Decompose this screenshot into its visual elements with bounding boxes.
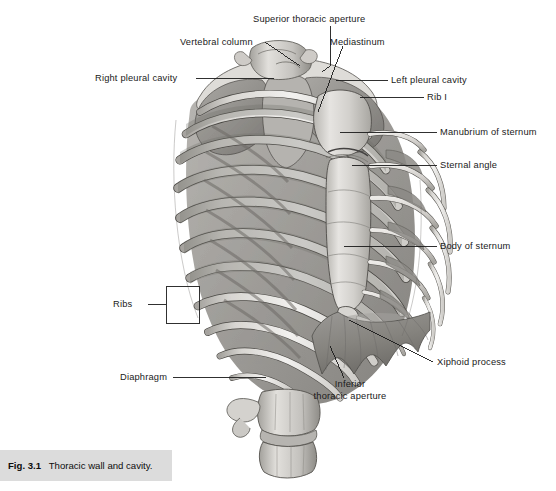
ribs-left-lateral xyxy=(178,94,406,398)
vertebral-column-lower xyxy=(227,389,320,478)
label-left-pleural-cavity: Left pleural cavity xyxy=(391,75,467,87)
label-superior-thoracic-aperture: Superior thoracic aperture xyxy=(253,14,365,26)
cropped-text-remnant xyxy=(0,0,556,4)
label-vertebral-column: Vertebral column xyxy=(180,37,253,49)
label-body-of-sternum: Body of sternum xyxy=(440,241,510,253)
sternum xyxy=(314,90,372,334)
leader-superior-thoracic-aperture xyxy=(322,26,330,72)
label-mediastinum: Mediastinum xyxy=(330,37,385,49)
label-sternal-angle: Sternal angle xyxy=(440,160,497,172)
thoracic-cavity-interior xyxy=(186,74,415,405)
figure-caption-title: Thoracic wall and cavity. xyxy=(49,460,153,471)
superior-thoracic-aperture-region xyxy=(195,58,384,168)
leader-vertebral-column xyxy=(265,42,300,66)
figure-thoracic-wall-and-cavity: Superior thoracic aperture Vertebral col… xyxy=(0,0,556,491)
leader-inferior-thoracic-aperture xyxy=(330,346,344,378)
figure-number: Fig. 3.1 xyxy=(8,460,41,471)
label-xiphoid-process: Xiphoid process xyxy=(437,357,506,369)
ribs-far-side xyxy=(204,126,300,358)
label-diaphragm: Diaphragm xyxy=(120,372,167,384)
intercostal-spaces xyxy=(178,105,404,342)
leader-mediastinum xyxy=(318,46,343,112)
figure-caption-text: Fig. 3.1 Thoracic wall and cavity. xyxy=(0,460,153,471)
leader-xiphoid-process xyxy=(349,320,433,362)
label-rib-i: Rib I xyxy=(427,92,447,104)
label-inferior-thoracic-aperture: Inferior thoracic aperture xyxy=(302,379,398,402)
label-ribs: Ribs xyxy=(113,299,132,311)
label-inferior-thoracic-aperture-line1: Inferior xyxy=(335,379,365,389)
label-right-pleural-cavity: Right pleural cavity xyxy=(95,73,177,85)
thorax-outline xyxy=(174,120,421,336)
ribs-bracket xyxy=(166,286,199,323)
diaphragm xyxy=(312,312,430,374)
figure-caption: Fig. 3.1 Thoracic wall and cavity. xyxy=(0,450,172,481)
label-inferior-thoracic-aperture-line2: thoracic aperture xyxy=(314,391,387,401)
label-manubrium-of-sternum: Manubrium of sternum xyxy=(440,127,537,139)
costal-cartilages xyxy=(358,133,436,354)
